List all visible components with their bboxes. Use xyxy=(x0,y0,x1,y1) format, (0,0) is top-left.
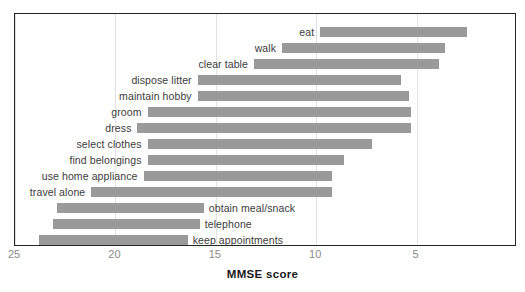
bar-row: travel alone xyxy=(15,184,515,200)
bar[interactable] xyxy=(254,59,439,69)
x-tick-label: 20 xyxy=(108,248,120,260)
bar-row: find belongings xyxy=(15,152,515,168)
bar-label: walk xyxy=(255,40,276,56)
bar[interactable] xyxy=(148,107,411,117)
bar[interactable] xyxy=(137,123,410,133)
bar-label: eat xyxy=(299,24,314,40)
bar[interactable] xyxy=(53,219,200,229)
bar-label: groom xyxy=(111,104,141,120)
x-tick-label: 25 xyxy=(8,248,20,260)
bar-row: telephone xyxy=(15,216,515,232)
bar-label: clear table xyxy=(198,56,248,72)
bar-label: keep appointments xyxy=(193,232,283,248)
bar-label: find belongings xyxy=(69,152,141,168)
bar-label: dress xyxy=(105,120,131,136)
bar-label: use home appliance xyxy=(42,168,138,184)
bar-row: keep appointments xyxy=(15,232,515,248)
bar-label: select clothes xyxy=(77,136,142,152)
bar-row: groom xyxy=(15,104,515,120)
bar-row: clear table xyxy=(15,56,515,72)
bar-row: dress xyxy=(15,120,515,136)
bar[interactable] xyxy=(198,91,409,101)
x-tick-label: 10 xyxy=(309,248,321,260)
x-tick-label: 15 xyxy=(209,248,221,260)
bar-label: dispose litter xyxy=(131,72,191,88)
bar-row: use home appliance xyxy=(15,168,515,184)
bar-row: maintain hobby xyxy=(15,88,515,104)
bars-layer: eatwalkclear tabledispose littermaintain… xyxy=(15,14,515,245)
bar[interactable] xyxy=(148,139,373,149)
bar[interactable] xyxy=(148,155,345,165)
bar-label: travel alone xyxy=(30,184,85,200)
bar-label: telephone xyxy=(205,216,252,232)
bar-row: select clothes xyxy=(15,136,515,152)
bar[interactable] xyxy=(320,27,467,37)
x-tick-label: 5 xyxy=(413,248,419,260)
bar-row: eat xyxy=(15,24,515,40)
x-axis-ticks: 252015105 xyxy=(14,248,516,266)
bar-row: dispose litter xyxy=(15,72,515,88)
bar-label: maintain hobby xyxy=(119,88,192,104)
bar-label: obtain meal/snack xyxy=(209,200,295,216)
bar[interactable] xyxy=(198,75,401,85)
bar-row: obtain meal/snack xyxy=(15,200,515,216)
bar[interactable] xyxy=(282,43,445,53)
bar[interactable] xyxy=(144,171,333,181)
bar[interactable] xyxy=(39,235,188,245)
bar[interactable] xyxy=(91,187,332,197)
x-axis-title: MMSE score xyxy=(0,268,525,280)
bar-row: walk xyxy=(15,40,515,56)
plot-area: eatwalkclear tabledispose littermaintain… xyxy=(14,13,516,246)
mmse-score-chart: eatwalkclear tabledispose littermaintain… xyxy=(0,0,525,292)
bar[interactable] xyxy=(57,203,204,213)
